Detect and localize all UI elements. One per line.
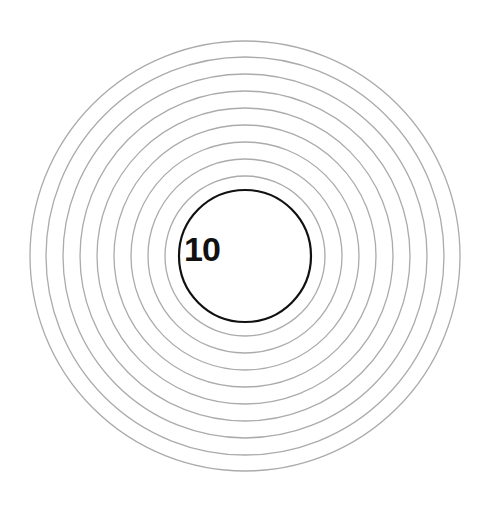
- score-label-10: 10: [184, 232, 220, 266]
- concentric-rings: [0, 0, 485, 511]
